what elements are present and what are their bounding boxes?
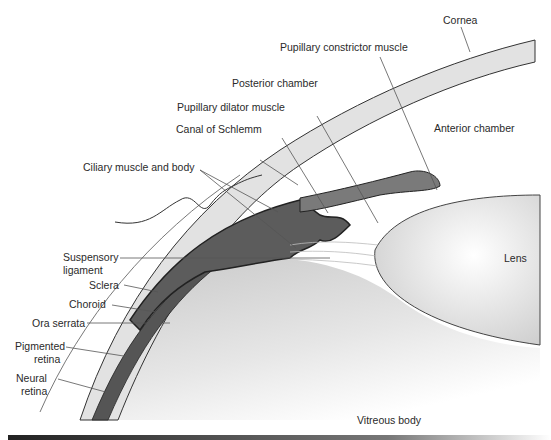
- label-sclera: Sclera: [89, 279, 119, 291]
- label-choroid: Choroid: [69, 298, 106, 310]
- label-pigmented-retina-line1: Pigmented: [15, 340, 65, 352]
- label-ora-serrata: Ora serrata: [32, 317, 85, 329]
- label-ciliary-muscle-and-body: Ciliary muscle and body: [83, 161, 195, 173]
- eye-anatomy-diagram: Cornea Pupillary constrictor muscle Post…: [0, 0, 551, 440]
- label-pupillary-dilator-muscle: Pupillary dilator muscle: [177, 101, 285, 113]
- iris: [300, 171, 440, 212]
- label-pigmented-retina-line2: retina: [34, 353, 60, 365]
- label-neural-retina-line2: retina: [21, 385, 47, 397]
- label-suspensory-ligament-line2: ligament: [63, 264, 103, 276]
- label-neural-retina-line1: Neural: [16, 372, 47, 384]
- label-canal-of-schlemm: Canal of Schlemm: [176, 123, 262, 135]
- label-vitreous-body: Vitreous body: [357, 414, 422, 426]
- footer-bar: [8, 435, 551, 440]
- label-cornea: Cornea: [443, 14, 478, 26]
- label-anterior-chamber: Anterior chamber: [434, 122, 515, 134]
- label-lens: Lens: [504, 252, 527, 264]
- label-suspensory-ligament-line1: Suspensory: [63, 251, 119, 263]
- label-posterior-chamber: Posterior chamber: [232, 77, 318, 89]
- label-pupillary-constrictor-muscle: Pupillary constrictor muscle: [280, 41, 408, 53]
